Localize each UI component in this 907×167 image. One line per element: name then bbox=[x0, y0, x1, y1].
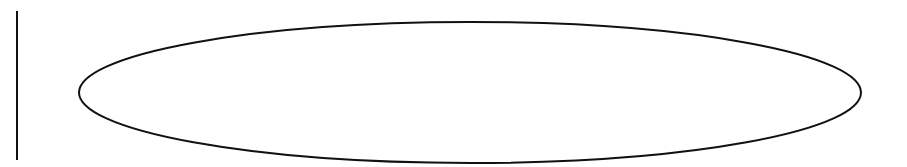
diagram-canvas bbox=[0, 0, 907, 167]
ellipse-shape bbox=[79, 22, 861, 163]
